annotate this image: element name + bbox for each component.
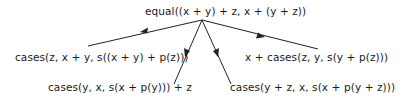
child-node-right: x + cases(z, y, s(y + p(z))) [245, 51, 388, 63]
tree-diagram: equal((x + y) + z, x + (y + z)) cases(z,… [0, 0, 403, 102]
child-node-down-right: cases(y + z, x, s(x + p(y + z))) [230, 81, 395, 93]
arrowhead-icon [213, 48, 219, 57]
child-node-left: cases(z, x + y, s((x + y) + p(z))) [15, 51, 189, 63]
edge-root-to-down-right [202, 20, 231, 84]
edge-root-to-left [88, 20, 202, 46]
root-node: equal((x + y) + z, x + (y + z)) [145, 5, 306, 17]
edge-root-to-right [202, 20, 318, 49]
child-node-down-left: cases(y, x, s(x + p(y))) + z [48, 81, 192, 93]
arrowhead-icon [140, 28, 148, 34]
